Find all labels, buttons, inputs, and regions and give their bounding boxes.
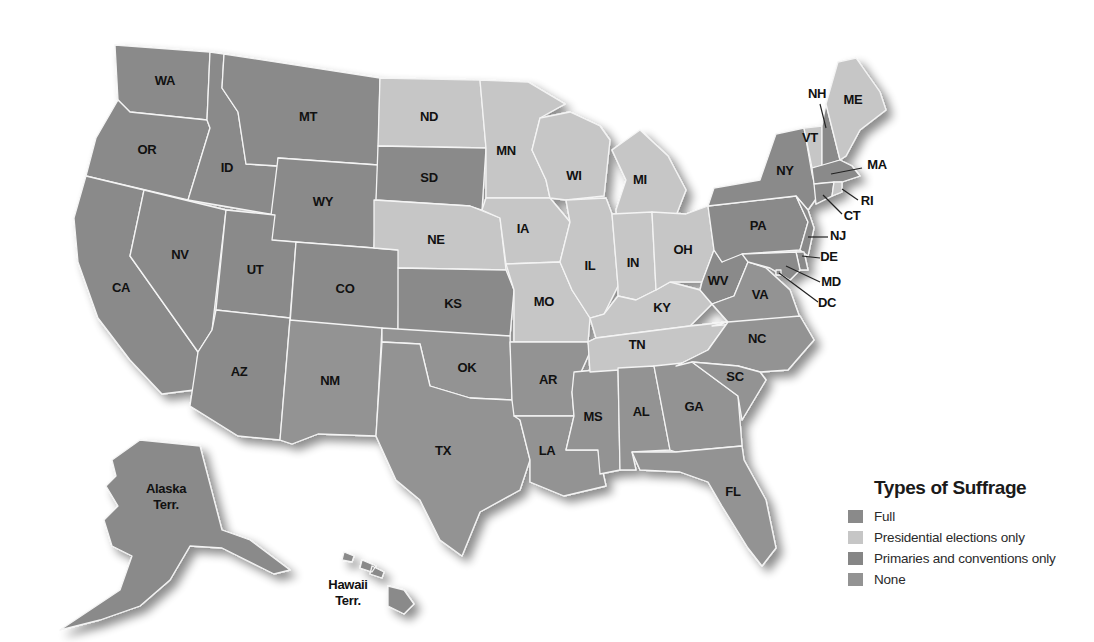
state-label-MT: MT (299, 109, 318, 124)
state-label-UT: UT (247, 262, 264, 277)
state-label-WV: WV (708, 273, 729, 288)
state-label-WY: WY (313, 194, 334, 209)
territory-label-hawaii: HawaiiTerr. (328, 577, 367, 608)
state-label-IL: IL (585, 258, 596, 273)
legend-swatch-primaries (848, 552, 863, 565)
state-label-AZ: AZ (231, 364, 248, 379)
state-label-LA: LA (539, 443, 557, 458)
legend-swatch-presidential (848, 531, 863, 544)
state-FL[interactable] (632, 446, 776, 566)
state-label-MN: MN (496, 143, 516, 158)
legend-swatch-none (848, 573, 863, 586)
legend-swatch-full (848, 510, 863, 523)
state-label-ID: ID (221, 160, 233, 175)
state-label-CA: CA (112, 280, 131, 295)
state-label-TN: TN (629, 337, 646, 352)
state-label-CO: CO (336, 281, 355, 296)
state-label-VA: VA (752, 287, 769, 302)
state-label-TX: TX (435, 443, 452, 458)
state-label-DC: DC (818, 295, 837, 310)
state-label-SD: SD (420, 170, 437, 185)
state-label-AL: AL (633, 404, 650, 419)
legend-item-full: Full (848, 507, 1088, 526)
state-label-OR: OR (138, 142, 158, 157)
leader-RI (842, 189, 858, 200)
state-label-MD: MD (821, 274, 841, 289)
state-label-SC: SC (726, 369, 744, 384)
state-label-NE: NE (427, 232, 445, 247)
state-label-OH: OH (674, 242, 693, 257)
state-label-MA: MA (867, 157, 888, 172)
state-label-PA: PA (750, 218, 767, 233)
legend-label-primaries: Primaries and conventions only (874, 551, 1056, 566)
state-label-WI: WI (566, 168, 581, 183)
state-label-IA: IA (517, 221, 530, 236)
territory-alaska[interactable] (60, 440, 290, 630)
legend-label-none: None (874, 572, 905, 587)
state-label-RI: RI (861, 193, 873, 208)
state-label-NM: NM (320, 373, 340, 388)
state-label-OK: OK (458, 360, 478, 375)
leader-CT (823, 195, 842, 214)
state-label-WA: WA (155, 73, 176, 88)
state-label-NY: NY (776, 163, 794, 178)
state-RI[interactable] (832, 182, 842, 196)
state-label-ME: ME (844, 92, 864, 107)
state-label-CT: CT (844, 208, 861, 223)
state-label-DE: DE (820, 249, 838, 264)
state-CT[interactable] (814, 182, 834, 204)
state-label-MO: MO (534, 294, 555, 309)
legend-item-primaries: Primaries and conventions only (848, 549, 1088, 568)
state-label-VT: VT (802, 130, 818, 145)
state-label-NJ: NJ (830, 228, 846, 243)
legend-title: Types of Suffrage (874, 477, 1088, 499)
legend-item-none: None (848, 570, 1088, 589)
legend-label-presidential: Presidential elections only (874, 530, 1025, 545)
legend-item-presidential: Presidential elections only (848, 528, 1088, 547)
state-label-KS: KS (444, 296, 462, 311)
state-label-MI: MI (633, 172, 647, 187)
state-label-KY: KY (653, 300, 671, 315)
state-label-MS: MS (584, 409, 604, 424)
state-label-NH: NH (808, 86, 826, 101)
legend: Types of Suffrage Full Presidential elec… (848, 477, 1088, 591)
state-label-GA: GA (685, 399, 705, 414)
state-label-NV: NV (171, 247, 189, 262)
state-label-IN: IN (627, 255, 639, 270)
state-label-NC: NC (748, 331, 767, 346)
state-label-AR: AR (539, 372, 558, 387)
state-label-FL: FL (725, 484, 741, 499)
state-label-ND: ND (420, 109, 438, 124)
legend-label-full: Full (874, 509, 895, 524)
